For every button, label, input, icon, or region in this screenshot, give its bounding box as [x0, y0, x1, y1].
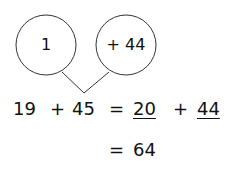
equals-sign-1: =: [109, 98, 124, 120]
right-branch-line: [84, 72, 109, 93]
plus-sign-2: +: [173, 98, 188, 120]
equals-sign-2: =: [109, 139, 124, 161]
plus-sign-1: +: [50, 98, 65, 120]
right-circle-value: + 44: [96, 35, 156, 55]
addend-a: 19: [13, 98, 36, 120]
addend-b: 45: [72, 98, 95, 120]
rounded-addend: 20: [133, 98, 156, 120]
left-circle-value: 1: [16, 35, 76, 55]
result-value: 64: [133, 139, 156, 161]
adjusted-addend: 44: [197, 98, 220, 120]
left-branch-line: [62, 72, 84, 93]
